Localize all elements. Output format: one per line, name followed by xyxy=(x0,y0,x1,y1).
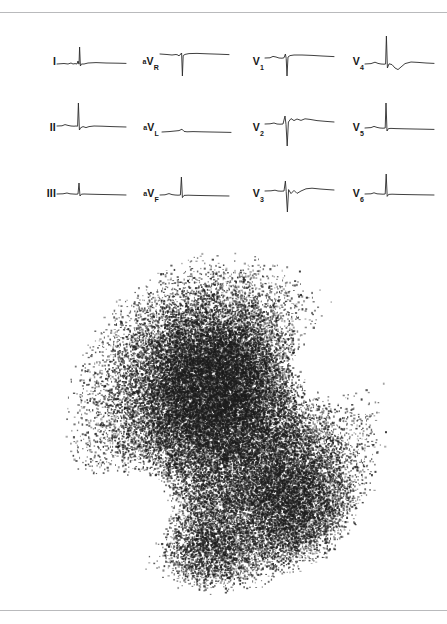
ecg-lead-V1: V1 xyxy=(230,30,338,92)
lead-label-III: III xyxy=(22,188,56,199)
ecg-row: III aVF V3 xyxy=(0,162,447,224)
ecg-lead-aVR: aVR xyxy=(125,30,233,92)
lead-label-aVR: aVR xyxy=(125,56,159,69)
ecg-trace-II xyxy=(56,96,130,158)
lead-label-V1: V1 xyxy=(230,56,264,69)
lead-label-aVL: aVL xyxy=(125,122,159,135)
ecg-panel: I aVR V1 xyxy=(0,24,447,234)
ecg-trace-III xyxy=(56,162,130,224)
ecg-lead-aVF: aVF xyxy=(125,162,233,224)
ecg-trace-aVF xyxy=(159,162,233,224)
ecg-trace-V6 xyxy=(364,162,438,224)
ecg-lead-III: III xyxy=(22,162,130,224)
ecg-trace-V2 xyxy=(264,96,338,158)
lead-label-V4: V4 xyxy=(330,56,364,69)
ecg-lead-V5: V5 xyxy=(330,96,438,158)
ecg-trace-I xyxy=(56,30,130,92)
figure-root: I aVR V1 xyxy=(0,0,447,624)
scintigram-panel xyxy=(60,248,390,596)
ecg-lead-V6: V6 xyxy=(330,162,438,224)
lead-label-V2: V2 xyxy=(230,122,264,135)
bottom-divider-rule xyxy=(0,610,447,611)
ecg-lead-V2: V2 xyxy=(230,96,338,158)
ecg-trace-V3 xyxy=(264,162,338,224)
ecg-trace-V1 xyxy=(264,30,338,92)
ecg-lead-V4: V4 xyxy=(330,30,438,92)
top-divider-rule xyxy=(0,12,447,13)
ecg-lead-aVL: aVL xyxy=(125,96,233,158)
lead-label-aVF: aVF xyxy=(125,188,159,201)
lead-label-V6: V6 xyxy=(330,188,364,201)
ecg-lead-I: I xyxy=(22,30,130,92)
lead-label-II: II xyxy=(22,122,56,133)
lead-label-I: I xyxy=(22,56,56,67)
ecg-trace-V4 xyxy=(364,30,438,92)
ecg-row: I aVR V1 xyxy=(0,30,447,92)
ecg-lead-II: II xyxy=(22,96,130,158)
ecg-lead-V3: V3 xyxy=(230,162,338,224)
ecg-trace-V5 xyxy=(364,96,438,158)
lead-label-V5: V5 xyxy=(330,122,364,135)
ecg-row: II aVL V2 xyxy=(0,96,447,158)
ecg-trace-aVL xyxy=(159,96,233,158)
scintigram-image xyxy=(60,248,390,596)
ecg-trace-aVR xyxy=(159,30,233,92)
lead-label-V3: V3 xyxy=(230,188,264,201)
